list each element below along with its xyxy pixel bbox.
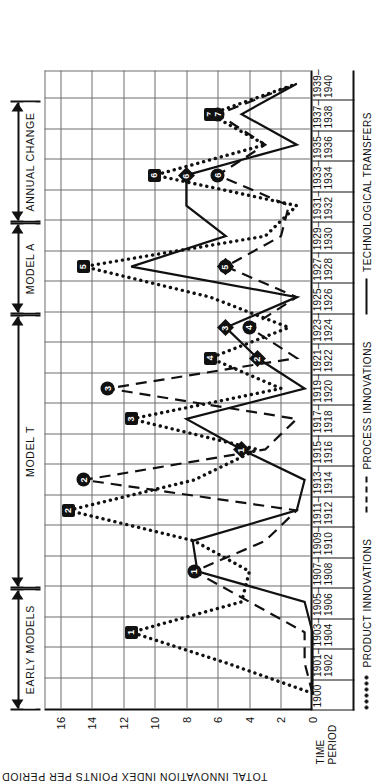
- x-tick-label: 1927– 1928: [312, 253, 354, 283]
- era-rule: [17, 316, 19, 586]
- square-marker-2: 2: [61, 503, 74, 516]
- y-tick-label: 10: [148, 716, 160, 750]
- y-axis-title: TOTAL INNOVATION INDEX POINTS PER PERIOD: [0, 770, 268, 782]
- series-line-dashed: [83, 83, 312, 693]
- circle-marker-3: 3: [100, 381, 114, 395]
- legend-swatch-solid-icon: [361, 278, 371, 314]
- marker-label: 1: [126, 629, 135, 634]
- square-marker-4: 4: [203, 351, 216, 364]
- x-tick-label: 1921– 1922: [312, 344, 354, 374]
- x-tick-label: 1901– 1902: [312, 649, 354, 679]
- era-arrow-left-icon: [11, 303, 23, 312]
- y-tick-label: 8: [180, 716, 192, 750]
- marker-label: 3: [126, 416, 135, 421]
- era-rule: [17, 103, 19, 221]
- era-band-row: EARLY MODELSMODEL TMODEL AANNUAL CHANGE: [10, 70, 42, 710]
- era-label: MODEL T: [23, 316, 35, 586]
- innovation-index-chart: EARLY MODELSMODEL TMODEL AANNUAL CHANGE …: [0, 0, 375, 782]
- legend-label: PROCESS INNOVATIONS: [361, 340, 372, 469]
- x-tick-label: 1907– 1908: [312, 558, 354, 588]
- marker-label: 1: [189, 568, 198, 573]
- marker-label: 4: [244, 325, 253, 330]
- era-rule: [17, 224, 19, 311]
- x-tick-label: 1911– 1912: [312, 497, 354, 527]
- era-label: ANNUAL CHANGE: [23, 103, 35, 221]
- legend-label: PRODUCT INNOVATIONS: [361, 538, 372, 667]
- y-tick-label: 14: [85, 716, 97, 750]
- marker-label: 2: [63, 507, 72, 512]
- x-tick-label: 1915– 1916: [312, 436, 354, 466]
- marker-label: 3: [103, 386, 112, 391]
- y-tick-label: 6: [211, 716, 223, 750]
- marker-label: 7: [213, 111, 222, 116]
- era-band: EARLY MODELS: [10, 588, 40, 710]
- marker-label: 4: [205, 355, 214, 360]
- x-tick-label: 1925– 1926: [312, 283, 354, 313]
- legend-item: PROCESS INNOVATIONS: [361, 340, 372, 512]
- marker-label: 6: [213, 172, 222, 177]
- marker-label: 6: [150, 172, 159, 177]
- x-tick-label: 1929– 1930: [312, 222, 354, 252]
- square-marker-1: 1: [124, 625, 137, 638]
- square-marker-3: 3: [124, 412, 137, 425]
- y-tick-label: 12: [117, 716, 129, 750]
- y-tick-label: 4: [243, 716, 255, 750]
- circle-marker-4: 4: [242, 320, 256, 334]
- x-axis-title-line1: TIME: [314, 724, 326, 764]
- legend-swatch-dashed-icon: [361, 476, 371, 512]
- x-tick-label: 1909– 1910: [312, 527, 354, 557]
- x-tick-label: 1905– 1906: [312, 588, 354, 618]
- era-label: EARLY MODELS: [23, 590, 35, 708]
- marker-label: 6: [181, 172, 190, 177]
- x-tick-label: 1900: [312, 680, 354, 710]
- era-arrow-right-icon: [11, 224, 23, 233]
- square-marker-6: 6: [148, 168, 161, 181]
- circle-marker-2: 2: [76, 472, 90, 486]
- legend-swatch-dotted-icon: [361, 674, 371, 710]
- era-arrow-left-icon: [11, 577, 23, 586]
- rotated-figure-wrapper: EARLY MODELSMODEL TMODEL AANNUAL CHANGE …: [0, 0, 375, 782]
- era-band: ANNUAL CHANGE: [10, 101, 40, 223]
- circle-marker-7: 7: [210, 107, 224, 121]
- era-arrow-right-icon: [11, 103, 23, 112]
- series-lines: [44, 68, 312, 708]
- legend-item: PRODUCT INNOVATIONS: [361, 538, 372, 710]
- marker-label: 2: [252, 355, 261, 360]
- x-axis-title-line2: PERIOD: [326, 724, 338, 764]
- x-axis-ticks: 19001901– 19021903– 19041905– 19061907– …: [312, 70, 358, 710]
- plot-area: 12345671234567123456: [44, 70, 312, 710]
- marker-label: 5: [79, 264, 88, 269]
- square-marker-5: 5: [77, 260, 90, 273]
- era-band: MODEL T: [10, 314, 40, 588]
- x-tick-label: 1933– 1934: [312, 161, 354, 191]
- legend-item: TECHNOLOGICAL TRANSFERS: [361, 112, 372, 315]
- era-label: MODEL A: [23, 224, 35, 311]
- era-arrow-left-icon: [11, 211, 23, 220]
- era-arrow-right-icon: [11, 316, 23, 325]
- circle-marker-1: 1: [187, 564, 201, 578]
- x-tick-label: 1903– 1904: [312, 619, 354, 649]
- marker-label: 3: [221, 325, 230, 330]
- legend: PRODUCT INNOVATIONSPROCESS INNOVATIONSTE…: [352, 70, 374, 710]
- circle-marker-6: 6: [210, 168, 224, 182]
- marker-label: 5: [221, 264, 230, 269]
- legend-label: TECHNOLOGICAL TRANSFERS: [361, 112, 372, 272]
- x-tick-label: 1917– 1918: [312, 405, 354, 435]
- x-tick-label: 1939– 1940: [312, 70, 354, 100]
- era-band: MODEL A: [10, 222, 40, 313]
- x-tick-label: 1937– 1938: [312, 100, 354, 130]
- x-tick-label: 1913– 1914: [312, 466, 354, 496]
- era-arrow-right-icon: [11, 590, 23, 599]
- era-rule: [17, 590, 19, 708]
- era-arrow-left-icon: [11, 699, 23, 708]
- x-tick-label: 1931– 1932: [312, 192, 354, 222]
- x-tick-label: 1935– 1936: [312, 131, 354, 161]
- marker-label: 1: [237, 446, 246, 451]
- x-tick-label: 1919– 1920: [312, 375, 354, 405]
- y-tick-label: 16: [54, 716, 66, 750]
- x-tick-label: 1923– 1924: [312, 314, 354, 344]
- x-axis-title: TIME PERIOD: [314, 724, 337, 764]
- y-tick-label: 2: [274, 716, 286, 750]
- marker-label: 2: [79, 477, 88, 482]
